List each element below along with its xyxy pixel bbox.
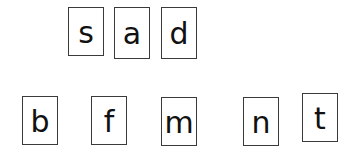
letter: t xyxy=(314,104,326,134)
letter: s xyxy=(78,18,94,48)
letter: n xyxy=(251,108,270,138)
letter: d xyxy=(169,19,188,49)
letter: a xyxy=(123,19,141,49)
letter-card-m[interactable]: m xyxy=(161,97,197,146)
letter: m xyxy=(164,108,193,138)
letter-card-n[interactable]: n xyxy=(243,97,279,146)
letter: b xyxy=(30,107,49,137)
letter-card-b[interactable]: b xyxy=(22,96,58,145)
letter: f xyxy=(104,107,115,137)
letter-card-t[interactable]: t xyxy=(302,93,338,142)
letter-card-a[interactable]: a xyxy=(114,7,150,59)
letter-card-f[interactable]: f xyxy=(91,96,127,145)
letter-card-s[interactable]: s xyxy=(68,7,104,56)
letter-card-d[interactable]: d xyxy=(161,7,197,59)
